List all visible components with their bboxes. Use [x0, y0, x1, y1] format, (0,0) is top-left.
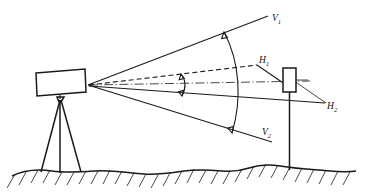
figure-canvas: V1 V2 H1 H2 — [0, 0, 369, 195]
label-v2-subscript: 2 — [268, 132, 272, 139]
label-h2-subscript: 2 — [334, 106, 338, 113]
label-v1: V1 — [272, 13, 281, 25]
svg-text:H1: H1 — [258, 55, 269, 67]
svg-text:V2: V2 — [262, 127, 272, 139]
svg-text:H2: H2 — [326, 101, 338, 113]
label-v2: V2 — [262, 127, 272, 139]
label-layer: V1 V2 H1 H2 — [0, 0, 369, 195]
label-h1-subscript: 1 — [266, 60, 269, 67]
label-h1: H1 — [258, 55, 269, 67]
label-h2: H2 — [326, 101, 338, 113]
svg-text:V1: V1 — [272, 13, 281, 25]
label-v1-subscript: 1 — [278, 18, 281, 25]
